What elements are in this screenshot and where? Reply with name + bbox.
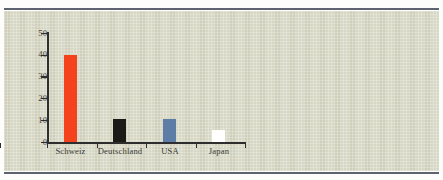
bar-schweiz[interactable]	[64, 55, 77, 142]
x-axis-label-deutschland: Deutschland	[90, 146, 150, 157]
y-tick-mark-20	[41, 98, 47, 99]
y-tick-mark-50	[41, 33, 47, 34]
x-axis-label-japan: Japan	[193, 146, 245, 157]
bar-deutschland[interactable]	[113, 119, 126, 142]
y-tick-group-10: 10	[0, 116, 47, 125]
bar-chart-plot-area: 50 40 30 20 10 0	[0, 0, 443, 180]
page-canvas: 50 40 30 20 10 0	[0, 0, 443, 180]
y-tick-mark-40	[41, 55, 47, 56]
y-tick-mark-30	[41, 76, 47, 77]
y-tick-group-20: 20	[0, 94, 47, 103]
bar-usa[interactable]	[163, 119, 176, 142]
y-tick-group-30: 30	[0, 72, 47, 81]
y-tick-group-40: 40	[0, 50, 47, 59]
bar-japan[interactable]	[212, 130, 225, 142]
x-tick-mark-4	[245, 143, 246, 148]
y-tick-group-0: 0	[0, 138, 47, 147]
x-axis-label-usa: USA	[144, 146, 196, 157]
y-axis-line	[47, 32, 49, 143]
bottom-horizontal-rule	[4, 172, 439, 174]
y-tick-group-50: 50	[0, 29, 47, 38]
x-tick-mark-3	[0, 143, 1, 148]
y-tick-mark-10	[41, 120, 47, 121]
